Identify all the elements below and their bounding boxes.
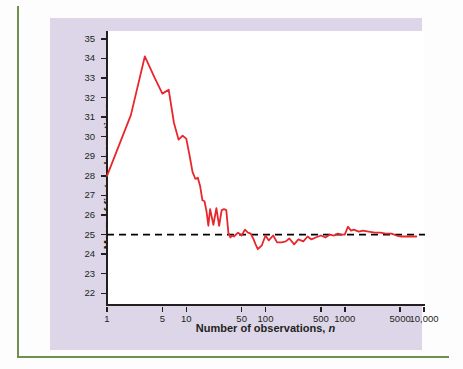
chart-svg xyxy=(0,0,463,369)
x-axis-title-italic-n: n xyxy=(328,322,335,334)
data-series-line xyxy=(107,56,416,249)
figure-page: Mean of first n observations 22232425262… xyxy=(0,0,463,369)
x-axis-title: Number of observations, n xyxy=(107,322,424,334)
x-axis-title-text: Number of observations, xyxy=(196,322,329,334)
